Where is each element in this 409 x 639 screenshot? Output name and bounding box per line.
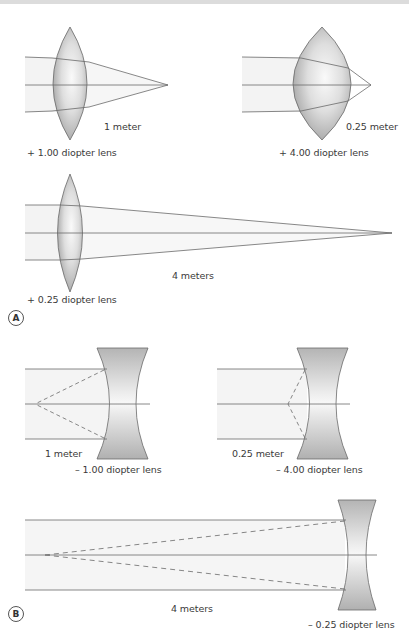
lens-minus-0-25-assembly bbox=[25, 500, 377, 610]
lens-minus-4-00-assembly bbox=[217, 348, 350, 459]
distance-label-4m-neg: 4 meters bbox=[171, 603, 213, 614]
convex-lens-icon bbox=[53, 27, 87, 140]
lens-minus-1-00-assembly bbox=[25, 348, 150, 459]
panel-letter-a: A bbox=[8, 310, 24, 326]
panel-letter-b: B bbox=[8, 606, 24, 622]
distance-label-0-25m-neg: 0.25 meter bbox=[232, 448, 284, 459]
power-label-minus-4-00: – 4.00 diopter lens bbox=[276, 464, 363, 475]
distance-label-1m: 1 meter bbox=[104, 121, 141, 132]
power-label-minus-1-00: – 1.00 diopter lens bbox=[75, 464, 162, 475]
lens-diagram bbox=[0, 0, 409, 639]
distance-label-4m: 4 meters bbox=[172, 270, 214, 281]
distance-label-0-25m: 0.25 meter bbox=[346, 121, 398, 132]
distance-label-1m-neg: 1 meter bbox=[45, 448, 82, 459]
power-label-plus-1-00: + 1.00 diopter lens bbox=[27, 147, 117, 158]
power-label-plus-0-25: + 0.25 diopter lens bbox=[27, 294, 117, 305]
convex-lens-icon bbox=[293, 27, 351, 140]
power-label-minus-0-25: – 0.25 diopter lens bbox=[308, 619, 395, 630]
power-label-plus-4-00: + 4.00 diopter lens bbox=[279, 147, 369, 158]
lens-plus-1-00-assembly bbox=[25, 27, 168, 140]
